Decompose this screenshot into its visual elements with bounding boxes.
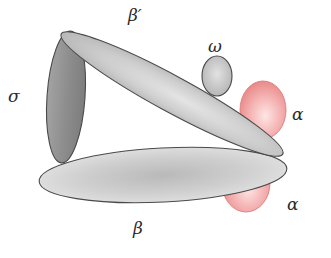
beta-label: β: [132, 218, 143, 238]
alpha-upper-label: α: [292, 104, 304, 124]
diagram-canvas: β′ ω σ α α β: [0, 0, 331, 258]
omega-label: ω: [208, 36, 222, 56]
sigma-label: σ: [8, 86, 20, 106]
alpha-lower-label: α: [287, 194, 299, 214]
beta-prime-label: β′: [127, 5, 142, 25]
rna-polymerase-diagram: β′ ω σ α α β: [0, 0, 331, 258]
omega-subunit: [202, 56, 232, 96]
